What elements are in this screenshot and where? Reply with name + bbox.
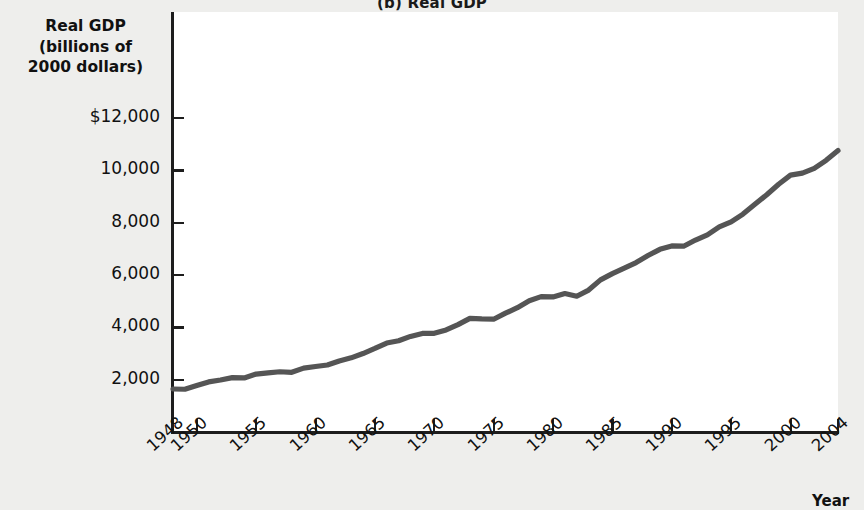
real-gdp-chart-figure: (b) Real GDP Real GDP (billions of 2000 … — [0, 0, 864, 510]
series-layer — [0, 0, 864, 510]
real-gdp-line — [173, 151, 838, 390]
x-axis-title: Year — [812, 492, 849, 510]
